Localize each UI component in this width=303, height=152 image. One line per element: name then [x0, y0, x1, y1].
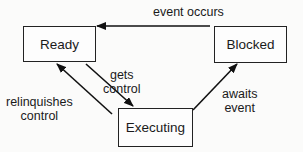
state-ready: Ready	[23, 26, 96, 62]
label-gets-control: gets control	[103, 68, 141, 96]
state-ready-label: Ready	[40, 37, 79, 52]
state-blocked-label: Blocked	[226, 37, 274, 52]
label-gets-line1: gets	[103, 68, 141, 82]
label-gets-line2: control	[103, 82, 141, 96]
label-relinquishes-line2: control	[6, 109, 73, 123]
state-executing-label: Executing	[126, 120, 185, 135]
state-blocked: Blocked	[214, 26, 287, 63]
label-relinquishes-line1: relinquishes	[6, 95, 73, 109]
label-awaits-line2: event	[222, 101, 257, 115]
state-executing: Executing	[118, 108, 193, 147]
label-awaits-line1: awaits	[222, 87, 257, 101]
label-relinquishes-control: relinquishes control	[6, 95, 73, 123]
label-event-occurs-text: event occurs	[153, 5, 224, 19]
label-event-occurs: event occurs	[153, 5, 224, 19]
label-awaits-event: awaits event	[222, 87, 257, 115]
